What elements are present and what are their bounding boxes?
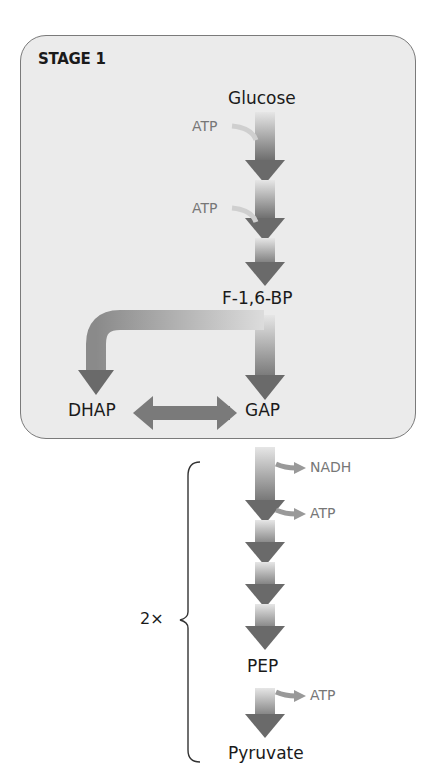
metabolite-gap: GAP [245, 400, 280, 420]
metabolite-dhap: DHAP [68, 400, 116, 420]
arrow-gap-step4 [245, 604, 285, 650]
metabolite-pep: PEP [247, 656, 278, 676]
arrow-gap-step2 [245, 520, 285, 566]
arrow-to-dhap-stem [96, 320, 264, 372]
arrow-to-dhap-head [78, 370, 114, 395]
nadh-output-label: NADH [310, 459, 351, 475]
atp-output-label-1: ATP [310, 505, 335, 521]
atp-input-curve-2 [232, 208, 256, 222]
pathway-arrows [0, 0, 440, 774]
arrow-glucose-step2 [245, 180, 285, 242]
atp-output-stem-2 [276, 692, 296, 696]
multiplier-label: 2× [140, 609, 164, 628]
atp-input-label-1: ATP [192, 118, 217, 134]
atp-output-label-2: ATP [310, 687, 335, 703]
atp-input-label-2: ATP [192, 200, 217, 216]
nadh-output-stem [276, 464, 296, 468]
nadh-output-head [294, 462, 306, 474]
metabolite-glucose: Glucose [228, 88, 296, 108]
atp-input-curve-1 [232, 126, 256, 140]
metabolite-f16bp: F-1,6-BP [222, 288, 292, 308]
atp-output-head-2 [294, 690, 306, 702]
atp-output-stem-1 [276, 510, 296, 514]
atp-output-head-1 [294, 508, 306, 520]
arrow-glucose-step1 [245, 112, 285, 184]
arrow-gap-step3 [245, 562, 285, 608]
metabolite-pyruvate: Pyruvate [228, 743, 304, 763]
arrow-glucose-step3 [245, 238, 285, 286]
repeat-brace [180, 462, 200, 762]
isomerase-double-arrow [133, 396, 237, 430]
stage-title: STAGE 1 [38, 50, 106, 68]
arrow-to-gap-head [245, 375, 285, 400]
